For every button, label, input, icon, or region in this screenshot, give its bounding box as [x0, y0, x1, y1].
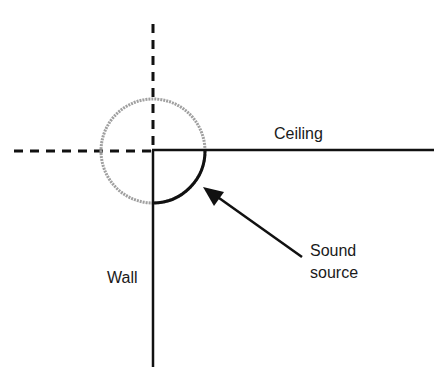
diagram-svg [0, 0, 444, 377]
wall-label: Wall [107, 269, 138, 286]
arrow-shaft [212, 193, 302, 257]
ceiling-label: Ceiling [274, 125, 323, 142]
arrow-head-icon [203, 187, 224, 206]
sound-source-label-line2: source [310, 264, 358, 281]
sound-source-label-line1: Sound [310, 242, 356, 259]
sound-source-arc [153, 150, 205, 203]
diagram-canvas: Ceiling Wall Sound source [0, 0, 444, 377]
